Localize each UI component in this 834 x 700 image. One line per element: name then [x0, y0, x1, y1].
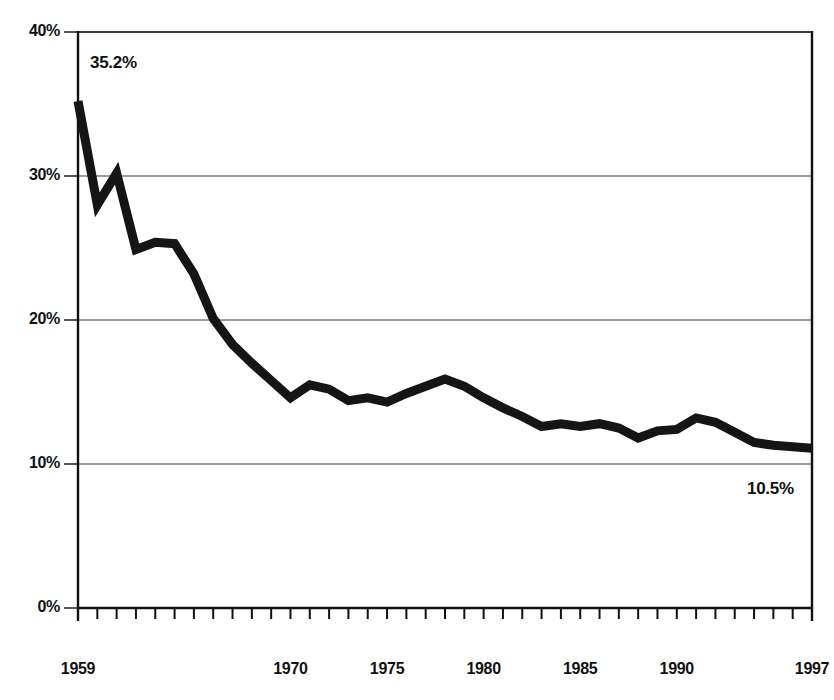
x-axis-label-1985: 1985	[550, 660, 610, 678]
x-axis-label-1997: 1997	[782, 660, 834, 678]
start-value-label: 35.2%	[90, 53, 137, 73]
y-axis-label-30: 30%	[29, 166, 60, 184]
data-series-group	[78, 101, 812, 448]
x-axis-label-1970: 1970	[260, 660, 320, 678]
y-axis-label-40: 40%	[29, 22, 60, 40]
x-axis-tick-marks	[78, 608, 812, 621]
y-axis-label-20: 20%	[29, 310, 60, 328]
y-axis-label-10: 10%	[29, 454, 60, 472]
y-axis-label-0: 0%	[37, 598, 60, 616]
gridlines-group	[78, 32, 812, 464]
data-line-series-0	[78, 101, 812, 448]
x-axis-label-1975: 1975	[357, 660, 417, 678]
x-axis-label-1980: 1980	[454, 660, 514, 678]
x-axis-label-1959: 1959	[48, 660, 108, 678]
y-axis-tick-marks	[64, 32, 78, 608]
end-value-label: 10.5%	[747, 479, 794, 499]
x-axis-label-1990: 1990	[647, 660, 707, 678]
